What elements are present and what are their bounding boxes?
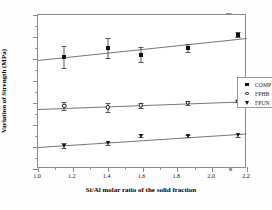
y-tick-minor	[35, 136, 38, 137]
error-bar-cap	[62, 148, 67, 149]
legend-label: FPHB	[255, 91, 269, 97]
error-bar-cap	[62, 46, 67, 47]
x-axis-title: Si/Al molar ratio of the solid fraction	[86, 186, 196, 194]
x-tick-label: 1.2	[68, 172, 76, 179]
error-bar-cap	[105, 103, 110, 104]
data-point-comp[interactable]	[106, 46, 110, 50]
chart-legend[interactable]: COMPFPHBFPUN	[237, 77, 272, 108]
data-point-fpun[interactable]	[106, 141, 110, 145]
trend-line-comp	[38, 38, 247, 61]
y-tick-minor	[35, 26, 38, 27]
x-tick	[247, 167, 248, 172]
legend-item-fpun[interactable]: FPUN	[241, 98, 272, 107]
data-point-comp[interactable]	[236, 33, 240, 37]
x-tick-label: 2.2	[242, 172, 250, 179]
x-tick-label: 1.6	[138, 172, 146, 179]
data-point-fpun[interactable]	[186, 134, 190, 138]
y-tick	[33, 125, 38, 126]
y-tick	[33, 15, 38, 16]
data-point-comp[interactable]	[62, 55, 66, 59]
x-tick	[73, 167, 74, 172]
x-tick-minor	[160, 167, 161, 170]
chart-figure: Variation of Strength (MPa) Si/Al molar …	[0, 0, 272, 210]
y-tick-minor	[35, 70, 38, 71]
data-point-comp[interactable]	[186, 46, 190, 50]
error-bar-cap	[236, 37, 241, 38]
y-tick-minor	[35, 158, 38, 159]
y-tick-minor	[35, 114, 38, 115]
x-tick	[143, 167, 144, 172]
x-tick-label: 1.8	[172, 172, 180, 179]
x-tick-minor	[230, 167, 231, 170]
y-tick	[33, 103, 38, 104]
error-bar-cap	[105, 38, 110, 39]
x-tick-minor	[90, 167, 91, 170]
error-bar-cap	[185, 52, 190, 53]
y-axis-title: Variation of Strength (MPa)	[0, 49, 8, 133]
filled-triangle-down-icon	[241, 101, 253, 105]
data-point-fphb[interactable]	[139, 103, 143, 107]
x-tick	[108, 167, 109, 172]
data-point-fpun[interactable]	[62, 144, 66, 148]
legend-label: COMP	[255, 82, 271, 88]
plot-area: COMPFPHBFPUN	[37, 14, 246, 168]
error-bar-cap	[62, 68, 67, 69]
y-tick-minor	[35, 92, 38, 93]
error-bar-cap	[138, 62, 143, 63]
error-bar-cap	[138, 47, 143, 48]
x-tick	[212, 167, 213, 172]
x-tick-minor	[125, 167, 126, 170]
error-bar-cap	[62, 110, 67, 111]
x-tick-label: 2.0	[207, 172, 215, 179]
legend-label: FPUN	[255, 100, 270, 106]
legend-item-comp[interactable]: COMP	[241, 80, 272, 89]
x-tick	[177, 167, 178, 172]
x-tick-minor	[55, 167, 56, 170]
data-point-fpun[interactable]	[139, 134, 143, 138]
data-point-fpun[interactable]	[236, 133, 240, 137]
x-tick-minor	[195, 167, 196, 170]
y-tick-minor	[35, 48, 38, 49]
error-bar-cap	[105, 58, 110, 59]
x-tick-label: 1.4	[103, 172, 111, 179]
data-point-comp[interactable]	[139, 53, 143, 57]
y-tick	[33, 37, 38, 38]
x-tick	[38, 167, 39, 172]
filled-square-icon	[241, 83, 253, 86]
data-point-fphb[interactable]	[105, 105, 109, 109]
y-tick	[33, 81, 38, 82]
error-bar-cap	[105, 112, 110, 113]
error-bar-cap	[138, 108, 143, 109]
error-bar-cap	[185, 44, 190, 45]
x-tick-label: 1.0	[33, 172, 41, 179]
open-circle-icon	[241, 92, 253, 95]
legend-item-fphb[interactable]: FPHB	[241, 89, 272, 98]
